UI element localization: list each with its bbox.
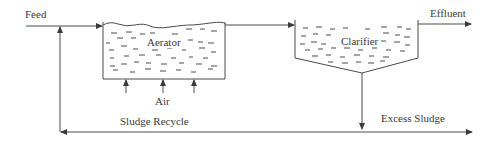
feed-label: Feed — [25, 9, 46, 20]
sludge-recycle-label: Sludge Recycle — [120, 116, 189, 127]
aerator-water-surface — [103, 22, 225, 28]
clarifier-label: Clarifier — [340, 36, 379, 47]
excess-sludge-label: Excess Sludge — [381, 113, 445, 124]
aerator-tank — [103, 22, 225, 79]
effluent-label: Effluent — [430, 8, 466, 19]
aerator-label: Aerator — [146, 37, 182, 48]
air-label: Air — [155, 96, 170, 107]
